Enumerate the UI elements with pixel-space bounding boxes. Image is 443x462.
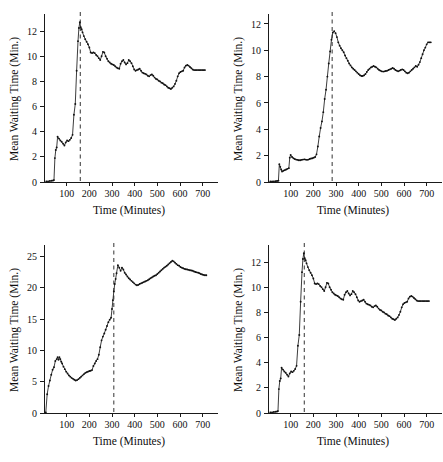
x-tick-label: 600: [397, 188, 412, 199]
x-tick-label: 700: [419, 188, 434, 199]
series-point: [106, 325, 108, 327]
series-point: [369, 68, 371, 70]
series-point: [329, 51, 331, 53]
x-tick-label: 100: [59, 419, 74, 430]
series-point: [305, 259, 307, 261]
chart-svg-0: 024681012100200300400500600700Time (Minu…: [0, 0, 221, 231]
series-point: [105, 329, 107, 331]
x-tick-label: 500: [374, 419, 389, 430]
x-tick-label: 100: [283, 188, 298, 199]
y-tick-label: 15: [27, 314, 37, 325]
y-tick-label: 6: [256, 98, 261, 109]
series-point: [399, 311, 401, 313]
series-point: [59, 358, 61, 360]
y-tick-label: 2: [32, 151, 37, 162]
series-point: [58, 359, 60, 361]
series-point: [347, 60, 349, 62]
series-point: [416, 66, 418, 68]
series-point: [306, 262, 308, 264]
series-point: [120, 63, 122, 65]
series-point: [424, 47, 426, 49]
series-point: [94, 363, 96, 365]
series-point: [131, 62, 133, 64]
series-point: [356, 72, 358, 74]
x-tick-label: 300: [329, 419, 344, 430]
series-point: [412, 68, 414, 70]
x-axis-title: Time (Minutes): [93, 204, 165, 217]
series-point: [408, 298, 410, 300]
series-point: [271, 181, 273, 183]
series-point: [139, 68, 141, 70]
series-point: [269, 411, 271, 413]
series-point: [333, 30, 335, 32]
series-point: [331, 39, 333, 41]
series-point: [105, 55, 107, 57]
series-point: [298, 334, 300, 336]
x-tick-label: 300: [105, 188, 120, 199]
series-point: [84, 38, 86, 40]
series-point: [316, 153, 318, 155]
series-point: [114, 283, 116, 285]
series-point: [339, 45, 341, 47]
series-point: [61, 141, 63, 143]
y-tick-label: 10: [251, 282, 261, 293]
series-point: [413, 66, 415, 68]
series-point: [348, 62, 350, 64]
series-point: [420, 57, 422, 59]
series-point: [52, 369, 54, 371]
series-point: [367, 69, 369, 71]
x-tick-label: 300: [105, 419, 120, 430]
x-tick-label: 200: [82, 188, 97, 199]
series-point: [82, 31, 84, 33]
series-point: [288, 167, 290, 169]
series-point: [102, 336, 104, 338]
series-point: [423, 49, 425, 51]
series-point: [346, 290, 348, 292]
series-point: [53, 179, 55, 181]
series-point: [86, 41, 88, 43]
series-point: [177, 75, 179, 77]
series-point: [335, 32, 337, 34]
series-point: [406, 301, 408, 303]
y-axis-title: Mean Waiting Time (Min.): [232, 37, 245, 161]
series-point: [310, 272, 312, 274]
series-point: [329, 286, 331, 288]
series-point: [174, 83, 176, 85]
series-point: [120, 270, 122, 272]
y-tick-label: 4: [32, 126, 37, 137]
x-tick-label: 200: [306, 188, 321, 199]
series-point: [65, 371, 67, 373]
series-point: [350, 64, 352, 66]
series-point: [393, 68, 395, 70]
series-point: [45, 411, 47, 413]
series-point: [121, 267, 123, 269]
series-point: [73, 114, 75, 116]
series-point: [79, 21, 81, 23]
series-point: [65, 141, 67, 143]
series-point: [273, 411, 275, 413]
series-point: [345, 57, 347, 59]
series-point: [318, 283, 320, 285]
series-point: [300, 301, 302, 303]
x-tick-label: 400: [127, 419, 142, 430]
series-point: [87, 43, 89, 45]
series-point: [56, 146, 58, 148]
series-point: [289, 372, 291, 374]
series-point: [47, 180, 49, 182]
series-point: [397, 316, 399, 318]
series-point: [296, 365, 298, 367]
x-tick-label: 100: [59, 188, 74, 199]
series-point: [303, 252, 305, 254]
series-point: [117, 264, 119, 266]
series-point: [118, 267, 120, 269]
series-point: [279, 380, 281, 382]
series-point: [358, 73, 360, 75]
series-point: [50, 374, 52, 376]
series-point: [118, 68, 120, 70]
series-point: [94, 52, 96, 54]
series-point: [72, 134, 74, 136]
series-point: [363, 74, 365, 76]
series-point: [408, 72, 410, 74]
x-axis-title: Time (Minutes): [317, 204, 389, 217]
series-point: [364, 301, 366, 303]
